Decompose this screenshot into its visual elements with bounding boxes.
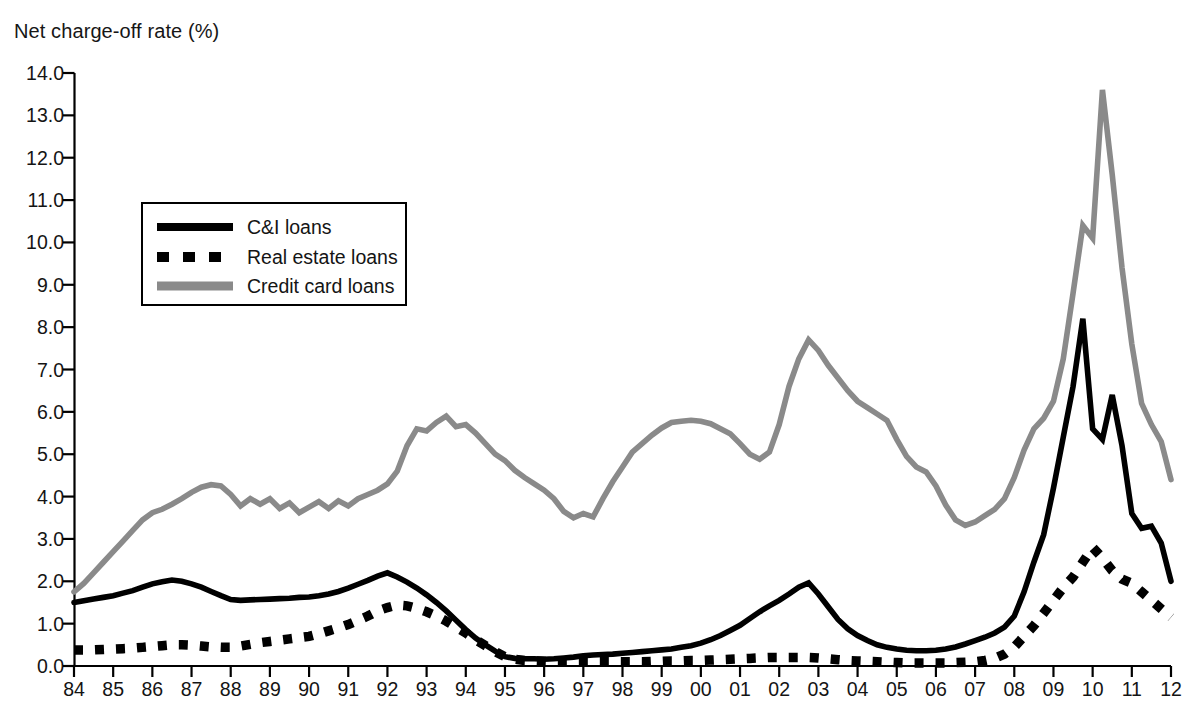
x-axis-tick-label: 90 <box>298 678 320 701</box>
y-axis-tick-label: 13.0 <box>26 104 64 127</box>
x-axis-tick-label: 94 <box>455 678 477 701</box>
series-line-credit-card-loans <box>74 90 1171 592</box>
y-axis-tick-label: 10.0 <box>26 231 64 254</box>
x-axis-tick-label: 95 <box>494 678 516 701</box>
x-axis-tick-label: 93 <box>416 678 438 701</box>
legend-swatch-solid-line-icon <box>157 216 233 238</box>
x-axis-tick-label: 89 <box>259 678 281 701</box>
legend-label: C&I loans <box>247 216 332 239</box>
x-axis-tick-label: 12 <box>1160 678 1182 701</box>
legend-swatch-gray-line-icon <box>157 275 233 297</box>
x-axis-tick-label: 05 <box>886 678 908 701</box>
x-axis-tick-label: 00 <box>690 678 712 701</box>
legend-label: Credit card loans <box>247 275 394 298</box>
y-axis-tick-label: 14.0 <box>26 62 64 85</box>
x-axis-tick-label: 02 <box>768 678 790 701</box>
x-axis-tick-labels: 8485868788899091929394959697989900010203… <box>74 678 1171 712</box>
chart-figure: Net charge-off rate (%) 0.01.02.03.04.05… <box>0 0 1189 727</box>
y-axis-tick-labels: 0.01.02.03.04.05.06.07.08.09.010.011.012… <box>0 73 64 666</box>
legend-item-ci-loans: C&I loans <box>157 213 332 241</box>
x-axis-tick-label: 09 <box>1043 678 1065 701</box>
x-axis-tick-label: 01 <box>729 678 751 701</box>
x-axis-tick-label: 92 <box>377 678 399 701</box>
x-axis-tick-label: 88 <box>220 678 242 701</box>
y-axis-tick-label: 5.0 <box>37 443 64 466</box>
x-axis-tick-label: 84 <box>63 678 85 701</box>
y-axis-tick-label: 6.0 <box>37 400 64 423</box>
x-axis-tick-label: 91 <box>337 678 359 701</box>
x-axis-tick-label: 85 <box>102 678 124 701</box>
plot-area <box>74 73 1171 666</box>
axis-ticks <box>63 73 1171 677</box>
page-title: Net charge-off rate (%) <box>14 20 219 43</box>
legend-label: Real estate loans <box>247 246 398 269</box>
legend-item-credit-card-loans: Credit card loans <box>157 272 394 300</box>
chart-legend: C&I loans Real estate loans Credit card … <box>141 202 407 306</box>
y-axis-tick-label: 9.0 <box>37 273 64 296</box>
x-axis-tick-label: 96 <box>533 678 555 701</box>
x-axis-tick-label: 11 <box>1122 678 1142 701</box>
y-axis-tick-label: 1.0 <box>37 612 64 635</box>
series-line-real-estate-loans <box>74 547 1171 663</box>
y-axis-tick-label: 2.0 <box>37 570 64 593</box>
x-axis-tick-label: 97 <box>572 678 594 701</box>
x-axis-tick-label: 86 <box>141 678 163 701</box>
y-axis-tick-label: 3.0 <box>37 527 64 550</box>
legend-item-real-estate-loans: Real estate loans <box>157 243 398 271</box>
x-axis-tick-label: 04 <box>847 678 869 701</box>
y-axis-tick-label: 11.0 <box>27 189 64 212</box>
x-axis-tick-label: 98 <box>612 678 634 701</box>
legend-swatch-dashed-line-icon <box>157 246 233 268</box>
y-axis-tick-label: 0.0 <box>37 655 64 678</box>
y-axis-tick-label: 7.0 <box>37 358 64 381</box>
x-axis-tick-label: 03 <box>808 678 830 701</box>
x-axis-tick-label: 08 <box>1003 678 1025 701</box>
x-axis-tick-label: 87 <box>181 678 203 701</box>
x-axis-tick-label: 07 <box>964 678 986 701</box>
y-axis-tick-label: 4.0 <box>37 485 64 508</box>
x-axis-tick-label: 06 <box>925 678 947 701</box>
axis-lines <box>75 73 1172 666</box>
data-series-group <box>74 90 1171 663</box>
y-axis-tick-label: 8.0 <box>37 316 64 339</box>
chart-svg <box>74 73 1171 666</box>
x-axis-tick-label: 99 <box>651 678 673 701</box>
y-axis-tick-label: 12.0 <box>26 146 64 169</box>
x-axis-tick-label: 10 <box>1082 678 1104 701</box>
